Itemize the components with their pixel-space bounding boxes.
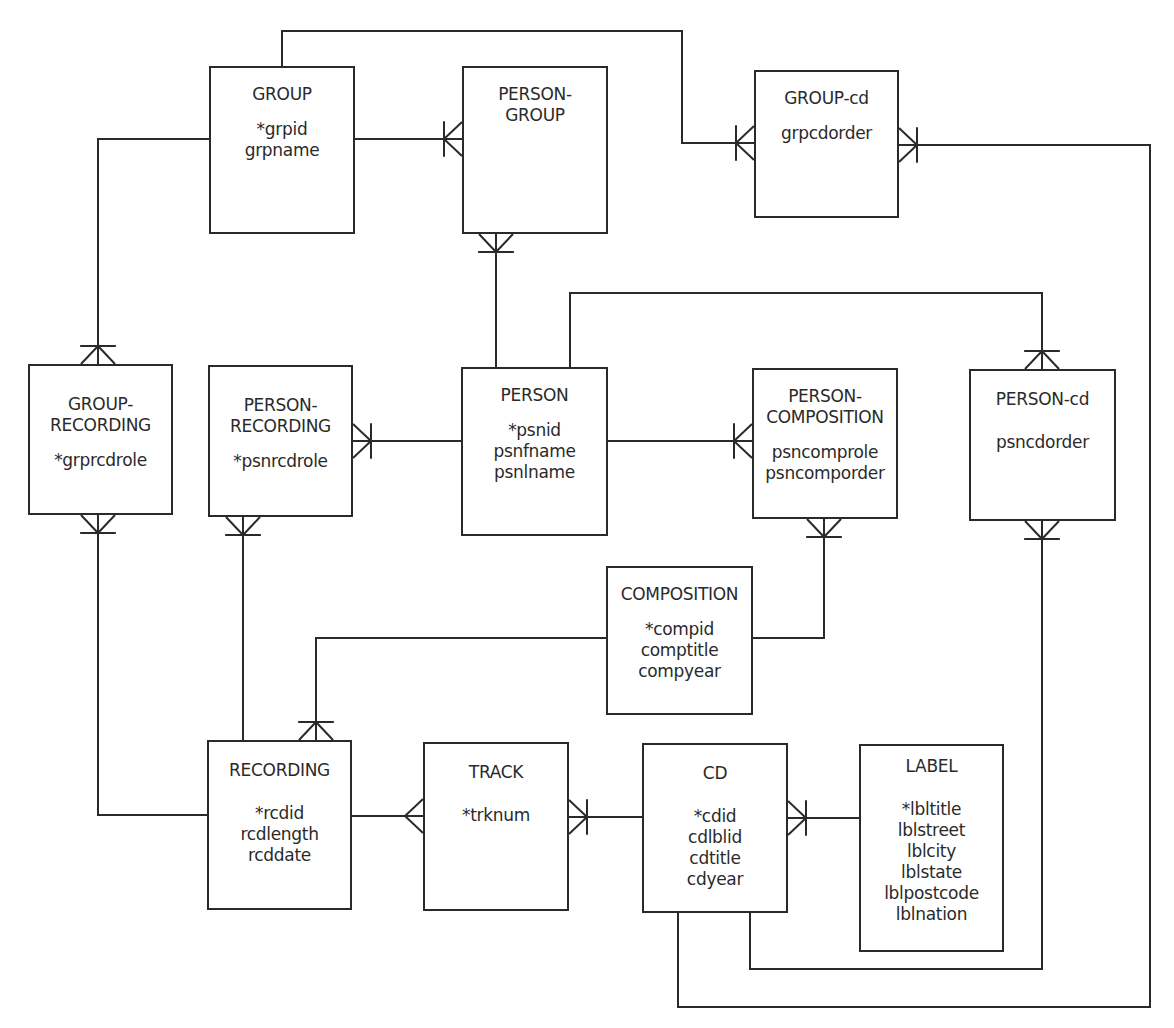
entity-composition: COMPOSITION *compid comptitle compyear	[606, 566, 753, 715]
relationship-label-cd	[788, 800, 859, 836]
entity-title: PERSON-	[210, 395, 351, 416]
entity-title: LABEL	[861, 756, 1002, 777]
entity-person-recording: PERSON- RECORDING *psnrcdrole	[208, 365, 353, 517]
entity-title: PERSON-	[464, 84, 606, 105]
attribute: rcdlength	[209, 824, 350, 845]
attribute: *psnrcdrole	[210, 451, 351, 472]
attribute: *psnid	[463, 420, 606, 441]
entity-title: PERSON-	[754, 386, 896, 407]
entity-title: RECORDING	[30, 415, 171, 436]
entity-person-cd: PERSON-cd psncdorder	[969, 369, 1116, 521]
relationship-group-person-group	[355, 121, 462, 157]
entity-person: PERSON *psnid psnfname psnlname	[461, 367, 608, 536]
attribute: grpcdorder	[756, 123, 897, 144]
entity-title: RECORDING	[210, 416, 351, 437]
attribute: psncdorder	[971, 432, 1114, 453]
entity-title: GROUP-	[30, 394, 171, 415]
attribute: psnlname	[463, 462, 606, 483]
entity-cd: CD *cdid cdlblid cdtitle cdyear	[642, 743, 788, 913]
attribute: cdlblid	[644, 827, 786, 848]
entity-title: TRACK	[425, 762, 567, 783]
entity-title: RECORDING	[209, 760, 350, 781]
entity-title: GROUP	[211, 84, 353, 105]
attribute: rcddate	[209, 845, 350, 866]
entity-person-group: PERSON- GROUP	[462, 66, 608, 234]
attribute: *grpid	[211, 119, 353, 140]
relationship-composition-person-composition	[753, 519, 842, 638]
attribute: *rcdid	[209, 803, 350, 824]
relationship-person-person-cd	[570, 293, 1060, 369]
entity-track: TRACK *trknum	[423, 742, 569, 911]
attribute: *trknum	[425, 805, 567, 826]
attribute: cdyear	[644, 869, 786, 890]
entity-group-cd: GROUP-cd grpcdorder	[754, 70, 899, 218]
entity-label: LABEL *lbltitle lblstreet lblcity lblsta…	[859, 744, 1004, 952]
relationship-person-person-composition	[608, 423, 752, 459]
relationship-composition-recording	[298, 638, 606, 740]
attribute: lblcity	[861, 841, 1002, 862]
attribute: psnfname	[463, 441, 606, 462]
attribute: psncomprole	[754, 442, 896, 463]
relationship-person-person-group	[478, 234, 514, 367]
entity-title: PERSON	[463, 385, 606, 406]
attribute: cdtitle	[644, 848, 786, 869]
entity-title: GROUP-cd	[756, 88, 897, 109]
attribute: psncomporder	[754, 463, 896, 484]
relationship-recording-person-recording	[225, 517, 261, 740]
attribute: *cdid	[644, 806, 786, 827]
attribute: *grprcdrole	[30, 450, 171, 471]
attribute: compyear	[608, 661, 751, 682]
attribute: *lbltitle	[861, 799, 1002, 820]
relationship-person-person-recording	[353, 423, 461, 459]
entity-title: CD	[644, 763, 786, 784]
attribute: lblstate	[861, 862, 1002, 883]
entity-title: COMPOSITION	[608, 584, 751, 605]
entity-recording: RECORDING *rcdid rcdlength rcddate	[207, 740, 352, 910]
relationship-recording-track	[352, 799, 423, 833]
attribute: comptitle	[608, 640, 751, 661]
entity-title: COMPOSITION	[754, 407, 896, 428]
relationship-group-group-recording	[80, 139, 209, 364]
relationship-recording-group-recording	[80, 515, 207, 815]
entity-title: PERSON-cd	[971, 389, 1114, 410]
relationship-cd-track	[569, 799, 642, 835]
entity-person-composition: PERSON- COMPOSITION psncomprole psncompo…	[752, 368, 898, 519]
attribute: lblstreet	[861, 820, 1002, 841]
attribute: lblnation	[861, 904, 1002, 925]
er-diagram: GROUP *grpid grpname PERSON- GROUP GROUP…	[0, 0, 1174, 1028]
attribute: grpname	[211, 140, 353, 161]
attribute: *compid	[608, 619, 751, 640]
attribute: lblpostcode	[861, 883, 1002, 904]
entity-title: GROUP	[464, 105, 606, 126]
entity-group: GROUP *grpid grpname	[209, 66, 355, 234]
entity-group-recording: GROUP- RECORDING *grprcdrole	[28, 364, 173, 515]
